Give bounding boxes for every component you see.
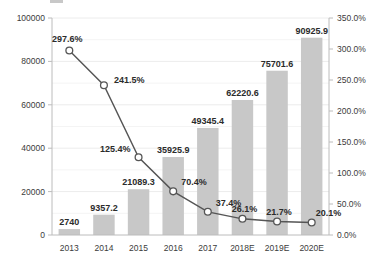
bar xyxy=(93,215,114,235)
bar-value-label: 2740 xyxy=(59,217,79,227)
line-marker xyxy=(66,47,73,54)
y-axis-left-tick-label: 40000 xyxy=(21,143,45,153)
bar-value-label: 35925.9 xyxy=(157,145,190,155)
line-value-label: 20.1% xyxy=(316,208,342,218)
bar-value-label: 49345.4 xyxy=(192,116,225,126)
x-axis-tick-label: 2017 xyxy=(198,243,217,253)
y-axis-right-tick-label: 350.0% xyxy=(337,13,366,23)
y-axis-left-tick-label: 100000 xyxy=(17,13,46,23)
y-axis-right-tick-label: 0.0% xyxy=(337,230,357,240)
y-axis-left-tick-label: 60000 xyxy=(21,100,45,110)
line-marker xyxy=(101,82,108,89)
x-axis-tick-label: 2016 xyxy=(164,243,183,253)
bar-value-label: 75701.6 xyxy=(261,59,294,69)
bar-value-label: 9357.2 xyxy=(90,203,118,213)
bar-value-label: 21089.3 xyxy=(122,177,155,187)
y-axis-right-tick-label: 150.0% xyxy=(337,137,366,147)
line-marker xyxy=(135,154,142,161)
y-axis-right-tick-label: 200.0% xyxy=(337,106,366,116)
line-value-label: 26.1% xyxy=(232,204,258,214)
x-axis-tick-label: 2018E xyxy=(230,243,255,253)
chart-container: 0200004000060000800001000000.0%50.0%100.… xyxy=(0,0,383,261)
bar xyxy=(232,100,253,235)
x-axis-tick-label: 2019E xyxy=(265,243,290,253)
y-axis-left-tick-label: 80000 xyxy=(21,56,45,66)
x-axis-tick-label: 2015 xyxy=(129,243,148,253)
line-value-label: 297.6% xyxy=(52,34,83,44)
x-axis-tick-label: 2013 xyxy=(60,243,79,253)
line-value-label: 241.5% xyxy=(114,75,145,85)
bar xyxy=(128,189,149,235)
line-marker xyxy=(170,188,177,195)
line-marker xyxy=(308,219,315,226)
line-value-label: 21.7% xyxy=(266,207,292,217)
line-marker xyxy=(239,215,246,222)
y-axis-right-tick-label: 100.0% xyxy=(337,168,366,178)
bar-value-label: 90925.9 xyxy=(295,26,328,36)
line-value-label: 125.4% xyxy=(100,144,131,154)
y-axis-right-tick-label: 250.0% xyxy=(337,75,366,85)
bar-value-label: 62220.6 xyxy=(226,88,259,98)
bar xyxy=(301,38,322,235)
legend-swatch xyxy=(50,0,63,3)
y-axis-right-tick-label: 300.0% xyxy=(337,44,366,54)
x-axis-tick-label: 2020E xyxy=(299,243,324,253)
y-axis-left-tick-label: 0 xyxy=(40,230,45,240)
combo-chart: 0200004000060000800001000000.0%50.0%100.… xyxy=(0,0,383,261)
bar xyxy=(59,229,80,235)
line-value-label: 70.4% xyxy=(181,177,207,187)
y-axis-left-tick-label: 20000 xyxy=(21,187,45,197)
line-marker xyxy=(274,218,281,225)
x-axis-tick-label: 2014 xyxy=(94,243,113,253)
line-marker xyxy=(204,208,211,215)
